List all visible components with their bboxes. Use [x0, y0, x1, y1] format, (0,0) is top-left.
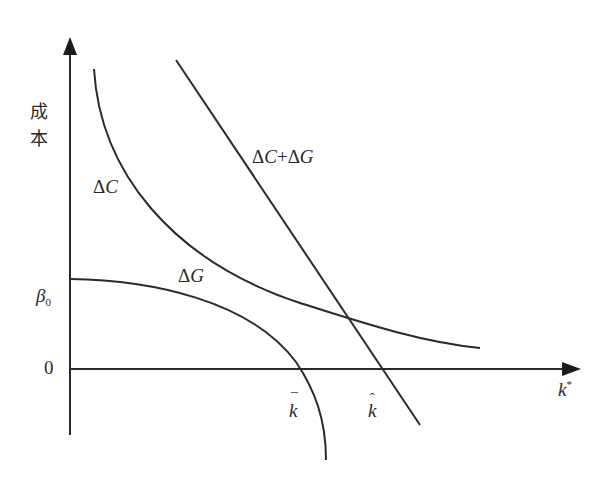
- cost-diagram: 成 本 β0 0 ΔC ΔG ΔC+ΔG ¯k ˆk k*: [0, 0, 615, 483]
- beta0-label: β0: [36, 286, 51, 308]
- delta-symbol: Δ: [93, 176, 105, 197]
- k-bar-label: ¯k: [289, 401, 297, 420]
- variable-g: G: [190, 265, 204, 286]
- star-superscript: *: [566, 378, 572, 390]
- x-axis-arrow-icon: [562, 362, 581, 376]
- diagram-canvas: [0, 0, 615, 483]
- y-axis-arrow-icon: [63, 37, 77, 55]
- delta-symbol: Δ: [178, 265, 190, 286]
- delta-symbol: Δ: [252, 146, 264, 167]
- k-hat-label: ˆk: [368, 401, 376, 420]
- delta-c-curve: [94, 69, 480, 348]
- delta-c-plus-delta-g-label: ΔC+ΔG: [252, 147, 314, 166]
- origin-label: 0: [44, 358, 54, 377]
- y-axis-label-char: 成: [30, 103, 48, 121]
- y-axis-label-char: 本: [30, 130, 48, 148]
- variable-g: G: [300, 146, 314, 167]
- delta-c-label: ΔC: [93, 177, 118, 196]
- delta-g-label: ΔG: [178, 266, 204, 285]
- bar-accent: ¯: [291, 392, 298, 406]
- hat-accent: ˆ: [370, 392, 375, 406]
- variable-c: C: [264, 146, 277, 167]
- plus-sign: +: [277, 146, 288, 167]
- delta-symbol: Δ: [288, 146, 300, 167]
- x-axis-label: k*: [558, 379, 572, 399]
- variable-c: C: [105, 176, 118, 197]
- delta-c-plus-delta-g-line: [176, 60, 420, 425]
- y-axis-label: 成 本: [30, 103, 48, 148]
- beta-subscript: 0: [45, 296, 51, 308]
